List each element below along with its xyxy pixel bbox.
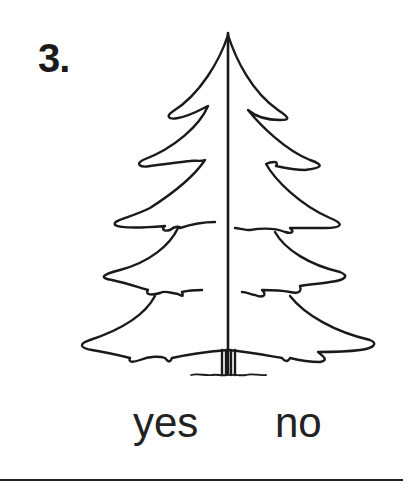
divider-line — [0, 479, 403, 481]
pine-tree-icon — [0, 0, 411, 400]
answer-yes-option[interactable]: yes — [133, 402, 198, 444]
answer-no-option[interactable]: no — [275, 402, 322, 444]
